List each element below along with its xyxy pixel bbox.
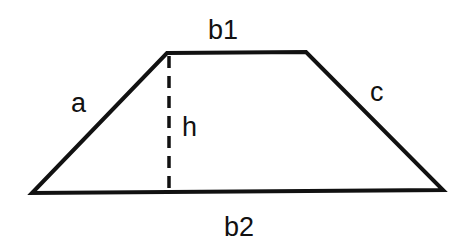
label-h: h bbox=[182, 112, 197, 142]
label-c: c bbox=[370, 77, 384, 107]
trapezoid-diagram: b1 b2 a c h bbox=[0, 0, 463, 251]
label-b1: b1 bbox=[208, 15, 238, 45]
diagram-svg: b1 b2 a c h bbox=[0, 0, 463, 251]
label-b2: b2 bbox=[224, 212, 254, 242]
trapezoid-shape bbox=[32, 52, 443, 193]
label-a: a bbox=[71, 88, 87, 118]
